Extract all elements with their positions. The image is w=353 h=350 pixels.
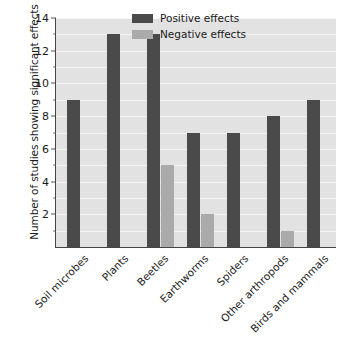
bar-chart-figure: Number of studies showing significant ef… (0, 0, 353, 350)
x-axis-tick-label: Plants (0, 252, 130, 350)
x-axis-labels: Soil microbesPlantsBeetlesEarthwormsSpid… (0, 0, 353, 350)
